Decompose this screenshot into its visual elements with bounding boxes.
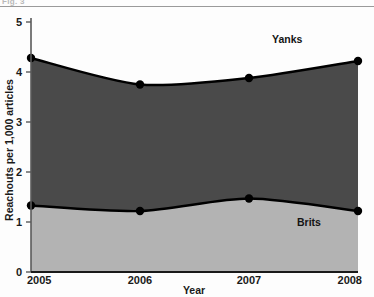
- brits-point-1: [136, 207, 144, 215]
- x-axis-title: Year: [183, 284, 205, 296]
- y-tick-label-4: 4: [16, 66, 23, 78]
- brits-point-3: [354, 207, 362, 215]
- x-tick-label-2006: 2006: [128, 274, 152, 286]
- x-tick-label-2005: 2005: [27, 274, 51, 286]
- series-label-brits: Brits: [297, 216, 321, 228]
- y-tick-label-1: 1: [16, 216, 22, 228]
- y-axis-tick-labels: 012345: [16, 16, 23, 278]
- y-axis-title: Reachouts per 1,000 articles: [3, 79, 15, 221]
- x-tick-label-2007: 2007: [237, 274, 261, 286]
- y-tick-label-5: 5: [16, 16, 22, 28]
- yanks-point-2: [245, 74, 253, 82]
- yanks-point-3: [354, 57, 362, 65]
- y-tick-label-3: 3: [16, 116, 22, 128]
- series-label-yanks: Yanks: [272, 33, 303, 45]
- x-tick-label-2008: 2008: [338, 274, 362, 286]
- figure-root: Fig. 3 012345 2005200620072008 YanksBrit…: [0, 0, 374, 297]
- y-tick-label-0: 0: [16, 266, 22, 278]
- yanks-point-1: [136, 80, 144, 88]
- brits-point-2: [245, 194, 253, 202]
- area-chart: 012345 2005200620072008 YanksBrits Year …: [0, 0, 374, 297]
- y-tick-label-2: 2: [16, 166, 22, 178]
